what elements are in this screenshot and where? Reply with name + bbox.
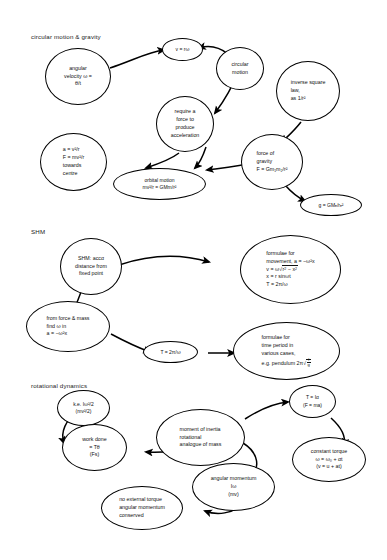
node-kinetic-energy-label: k.e. Iω²/2 (mv²/2)	[70, 401, 97, 416]
node-g-field-strength-label: g = GMₑ/rₑ²	[316, 202, 347, 209]
node-period-formula-label: T = 2π/ω	[157, 349, 183, 356]
node-g-field-strength[interactable]: g = GMₑ/rₑ²	[300, 194, 362, 216]
arrow-require-to-orbital	[195, 147, 206, 168]
node-shm-movement-formulae[interactable]: formulae formovement, a = −ω²xv = ω√r2 −…	[240, 235, 341, 304]
node-kinetic-energy[interactable]: k.e. Iω²/2 (mv²/2)	[57, 390, 110, 426]
node-force-of-gravity[interactable]: force of gravity F = Gm₁m₂/r²	[241, 134, 303, 190]
node-torque-equation[interactable]: T = Iα (F = ma)	[289, 385, 336, 418]
node-v-equals-r-omega-label: v = rω	[173, 46, 193, 53]
node-force-of-gravity-label: force of gravity F = Gm₁m₂/r²	[253, 150, 290, 174]
section-label-rotational-dynamics: rotational dynamics	[31, 382, 87, 389]
node-inverse-square-law[interactable]: inverse square law, as 1/r²	[276, 61, 340, 121]
node-no-external-torque-label: no external torque angular momentum cons…	[116, 496, 168, 520]
node-period-formula[interactable]: T = 2π/ω	[143, 341, 198, 363]
node-work-done-label: work done = Tθ (Fs)	[79, 436, 109, 460]
sqrt-expression-pendulum: e.g. pendulum 2π√lg	[262, 359, 312, 366]
node-require-force-label: require a force to produce acceleration	[168, 108, 203, 140]
node-time-period-cases-label: formulae fortime period invarious cases,…	[259, 334, 315, 368]
node-angular-momentum-label: angular momentum Iω (mv)	[208, 475, 260, 499]
node-from-force-and-mass-label: from force & mass find ω in a = −ω²x	[44, 315, 93, 339]
node-shm-definition[interactable]: SHM: accα distance from fixed point	[60, 238, 122, 295]
node-angular-velocity[interactable]: angular velocity ω = θ/t	[45, 48, 111, 105]
concept-map-canvas: circular motion & gravity SHM rotational…	[0, 0, 387, 560]
node-moment-of-inertia[interactable]: moment of inertia rotational analogue of…	[156, 409, 245, 466]
node-angular-momentum[interactable]: angular momentum Iω (mv)	[192, 463, 275, 511]
arrow-angular-to-v	[110, 50, 164, 68]
node-orbital-motion-label: orbital motion mv²/r = GMm/r²	[139, 177, 179, 192]
arrow-shm-to-formulae	[119, 256, 209, 265]
node-shm-definition-label: SHM: accα distance from fixed point	[72, 255, 110, 279]
sqrt-expression-v: v = ω√r2 − x2	[266, 265, 297, 272]
arrow-inertia-to-torque	[245, 402, 288, 419]
node-no-external-torque[interactable]: no external torque angular momentum cons…	[101, 486, 183, 530]
node-circular-motion[interactable]: circular motion	[216, 47, 264, 90]
node-shm-movement-formulae-label: formulae formovement, a = −ω²xv = ω√r2 −…	[263, 250, 317, 290]
node-work-done[interactable]: work done = Tθ (Fs)	[62, 424, 127, 471]
node-moment-of-inertia-label: moment of inertia rotational analogue of…	[177, 426, 225, 450]
node-torque-equation-label: T = Iα (F = ma)	[300, 394, 325, 409]
node-from-force-and-mass[interactable]: from force & mass find ω in a = −ω²x	[26, 301, 110, 352]
node-constant-torque-label: constant torque ω = ω₀ + αt (v = u + at)	[308, 448, 351, 472]
node-time-period-cases[interactable]: formulae fortime period invarious cases,…	[233, 322, 340, 380]
section-label-shm: SHM	[31, 228, 45, 235]
node-centripetal-formulae[interactable]: a = v²/r F = mv²/r towards centre	[40, 133, 107, 191]
arrow-require-to-centripetal	[146, 153, 179, 168]
node-circular-motion-label: circular motion	[228, 61, 251, 77]
node-angular-velocity-label: angular velocity ω = θ/t	[61, 65, 95, 89]
node-constant-torque[interactable]: constant torque ω = ω₀ + αt (v = u + at)	[292, 437, 366, 482]
node-inverse-square-law-label: inverse square law, as 1/r²	[288, 79, 329, 103]
node-v-equals-r-omega[interactable]: v = rω	[162, 38, 203, 61]
section-label-circular-motion: circular motion & gravity	[31, 33, 101, 40]
arrow-gravity-to-g	[285, 185, 305, 201]
node-centripetal-formulae-label: a = v²/r F = mv²/r towards centre	[60, 146, 87, 178]
node-require-force[interactable]: require a force to produce acceleration	[156, 96, 214, 152]
node-orbital-motion[interactable]: orbital motion mv²/r = GMm/r²	[113, 168, 206, 200]
